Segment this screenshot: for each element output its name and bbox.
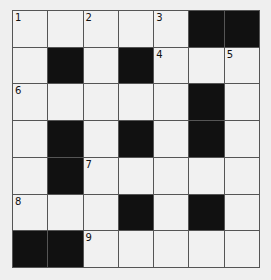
answer-cell[interactable]: [84, 84, 119, 121]
answer-cell[interactable]: 2: [84, 11, 119, 48]
clue-number: 2: [86, 12, 92, 23]
answer-cell[interactable]: [84, 121, 119, 158]
black-cell: [48, 158, 83, 195]
answer-cell[interactable]: 7: [84, 158, 119, 195]
answer-cell[interactable]: [13, 158, 48, 195]
answer-cell[interactable]: [154, 84, 189, 121]
answer-cell[interactable]: [84, 195, 119, 232]
black-cell: [189, 195, 224, 232]
answer-cell[interactable]: [225, 158, 260, 195]
clue-number: 3: [156, 12, 162, 23]
answer-cell[interactable]: [13, 48, 48, 85]
answer-cell[interactable]: 3: [154, 11, 189, 48]
black-cell: [48, 121, 83, 158]
black-cell: [225, 11, 260, 48]
answer-cell[interactable]: [154, 195, 189, 232]
clue-number: 4: [156, 49, 162, 60]
answer-cell[interactable]: [154, 121, 189, 158]
black-cell: [189, 121, 224, 158]
black-cell: [119, 195, 154, 232]
answer-cell[interactable]: 9: [84, 231, 119, 268]
black-cell: [48, 231, 83, 268]
black-cell: [189, 11, 224, 48]
crossword-grid: 123456789: [12, 10, 260, 268]
answer-cell[interactable]: [189, 48, 224, 85]
clue-number: 9: [86, 232, 92, 243]
answer-cell[interactable]: [119, 231, 154, 268]
clue-number: 5: [227, 49, 233, 60]
answer-cell[interactable]: [225, 84, 260, 121]
answer-cell[interactable]: 8: [13, 195, 48, 232]
answer-cell[interactable]: [189, 231, 224, 268]
answer-cell[interactable]: [13, 121, 48, 158]
answer-cell[interactable]: 1: [13, 11, 48, 48]
answer-cell[interactable]: 5: [225, 48, 260, 85]
answer-cell[interactable]: [84, 48, 119, 85]
answer-cell[interactable]: [189, 158, 224, 195]
clue-number: 7: [86, 159, 92, 170]
black-cell: [119, 121, 154, 158]
clue-number: 8: [15, 196, 21, 207]
answer-cell[interactable]: [48, 84, 83, 121]
black-cell: [119, 48, 154, 85]
answer-cell[interactable]: [154, 231, 189, 268]
answer-cell[interactable]: [119, 158, 154, 195]
clue-number: 6: [15, 85, 21, 96]
answer-cell[interactable]: [154, 158, 189, 195]
answer-cell[interactable]: [225, 195, 260, 232]
black-cell: [13, 231, 48, 268]
clue-number: 1: [15, 12, 21, 23]
answer-cell[interactable]: [48, 195, 83, 232]
answer-cell[interactable]: [225, 121, 260, 158]
answer-cell[interactable]: [48, 11, 83, 48]
answer-cell[interactable]: 4: [154, 48, 189, 85]
answer-cell[interactable]: 6: [13, 84, 48, 121]
answer-cell[interactable]: [225, 231, 260, 268]
answer-cell[interactable]: [119, 11, 154, 48]
black-cell: [48, 48, 83, 85]
black-cell: [189, 84, 224, 121]
answer-cell[interactable]: [119, 84, 154, 121]
